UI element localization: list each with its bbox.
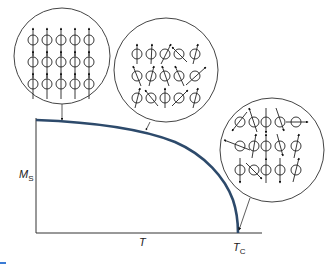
- y-axis-label: MS: [19, 168, 34, 183]
- magnetization-curve: [36, 120, 238, 233]
- x-axis-label: T: [139, 236, 146, 248]
- pointer-Tc: [239, 198, 250, 230]
- inset-partial: [114, 18, 218, 122]
- diagram-canvas: [0, 0, 332, 265]
- curie-temperature-label: TC: [233, 241, 246, 256]
- inset-random: [220, 98, 324, 202]
- corner-mark: [0, 262, 6, 264]
- magnetization-diagram: MS T TC: [0, 0, 332, 265]
- pointer-mid-T: [146, 122, 150, 130]
- inset-aligned: [14, 8, 110, 104]
